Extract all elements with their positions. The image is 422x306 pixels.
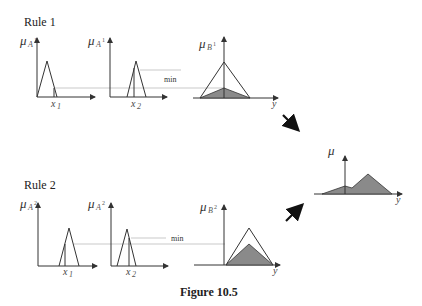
svg-text:A: A <box>95 40 101 49</box>
rule1-min-label: min <box>164 75 176 84</box>
rule2-consequent-plot: μ B 2 y <box>194 199 280 276</box>
svg-text:B: B <box>208 206 213 215</box>
svg-text:1: 1 <box>57 102 61 111</box>
svg-text:2: 2 <box>137 102 141 111</box>
svg-text:2: 2 <box>34 200 37 206</box>
rule2-title: Rule 2 <box>24 178 56 192</box>
rule2-min-label: min <box>171 234 183 243</box>
svg-text:y: y <box>395 194 401 205</box>
arrow-down-right-icon <box>283 115 297 129</box>
svg-text:1: 1 <box>213 41 216 47</box>
figure-caption: Figure 10.5 <box>180 285 238 299</box>
svg-text:x: x <box>130 98 136 109</box>
svg-text:1: 1 <box>102 37 105 43</box>
rule1-antecedent-2-plot: μ A 1 x 2 <box>87 33 167 111</box>
membership-triangle <box>127 61 146 97</box>
svg-text:A: A <box>27 203 33 212</box>
rule1-title: Rule 1 <box>24 15 56 29</box>
rule2-antecedent-2-plot: μ A 2 x 2 <box>87 196 168 279</box>
svg-text:μ: μ <box>87 196 95 211</box>
arrow-up-right-icon <box>286 206 301 221</box>
rule2-antecedent-1-plot: μ A 2 x 1 <box>19 196 97 279</box>
rule1-consequent-plot: μ B 1 y <box>193 36 278 109</box>
svg-text:μ: μ <box>19 196 27 211</box>
svg-text:A: A <box>95 203 101 212</box>
svg-text:x: x <box>125 266 131 277</box>
membership-triangle <box>59 228 79 266</box>
rule1-antecedent-1-plot: μ A 1 x 1 <box>19 33 95 111</box>
svg-text:A: A <box>27 40 33 49</box>
svg-text:1: 1 <box>69 270 73 279</box>
aggregated-area <box>322 174 392 194</box>
svg-text:y: y <box>271 98 277 109</box>
fuzzy-inference-diagram: Rule 1 μ A 1 x 1 μ A 1 x 2 min μ B 1 y <box>0 0 422 306</box>
clipped-output-area <box>200 88 250 98</box>
membership-triangle <box>117 229 136 266</box>
svg-text:B: B <box>207 43 212 52</box>
aggregate-mu-label: μ <box>327 143 335 158</box>
aggregated-output-plot: μ y <box>314 143 402 205</box>
svg-text:y: y <box>272 265 278 276</box>
svg-text:μ: μ <box>198 36 206 51</box>
svg-text:μ: μ <box>199 199 207 214</box>
svg-text:x: x <box>62 266 68 277</box>
svg-text:x: x <box>50 98 56 109</box>
rule1-plot1-mu-label: μ <box>19 33 27 48</box>
svg-text:μ: μ <box>87 33 95 48</box>
svg-text:2: 2 <box>102 200 105 206</box>
svg-text:2: 2 <box>214 204 217 210</box>
svg-text:2: 2 <box>132 270 136 279</box>
